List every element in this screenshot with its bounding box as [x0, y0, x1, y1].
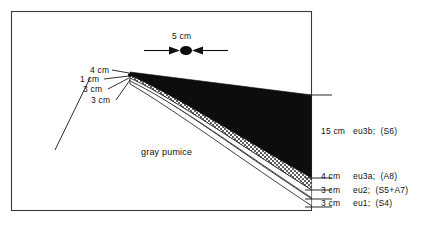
thickness-label-4: 3 cm: [91, 96, 110, 105]
unit-name-eu3b: eu3b; (S6): [353, 127, 397, 136]
unit-name-eu1: eu1; (S4): [353, 199, 392, 208]
apex-marker-dot: [128, 73, 132, 77]
unit-thickness-eu2: 3 cm: [321, 186, 340, 195]
unit-name-eu3a: eu3a; (A8): [353, 172, 397, 181]
thickness-label-3: 3 cm: [83, 85, 102, 94]
scale-center-dot: [180, 46, 192, 55]
unit-thickness-eu3b: 15 cm: [321, 127, 345, 136]
figure-root: 5 cm 4 cm 1 cm 3 cm 3 cm gray pumice 15 …: [0, 0, 440, 226]
thickness-label-2: 1 cm: [80, 75, 99, 84]
unit-thickness-eu1: 3 cm: [321, 199, 340, 208]
unit-thickness-eu3a: 4 cm: [321, 172, 340, 181]
unit-name-eu2: eu2; (S5+A7): [353, 186, 408, 195]
gray-pumice-label: gray pumice: [141, 148, 192, 157]
scale-bar-label: 5 cm: [172, 32, 191, 41]
